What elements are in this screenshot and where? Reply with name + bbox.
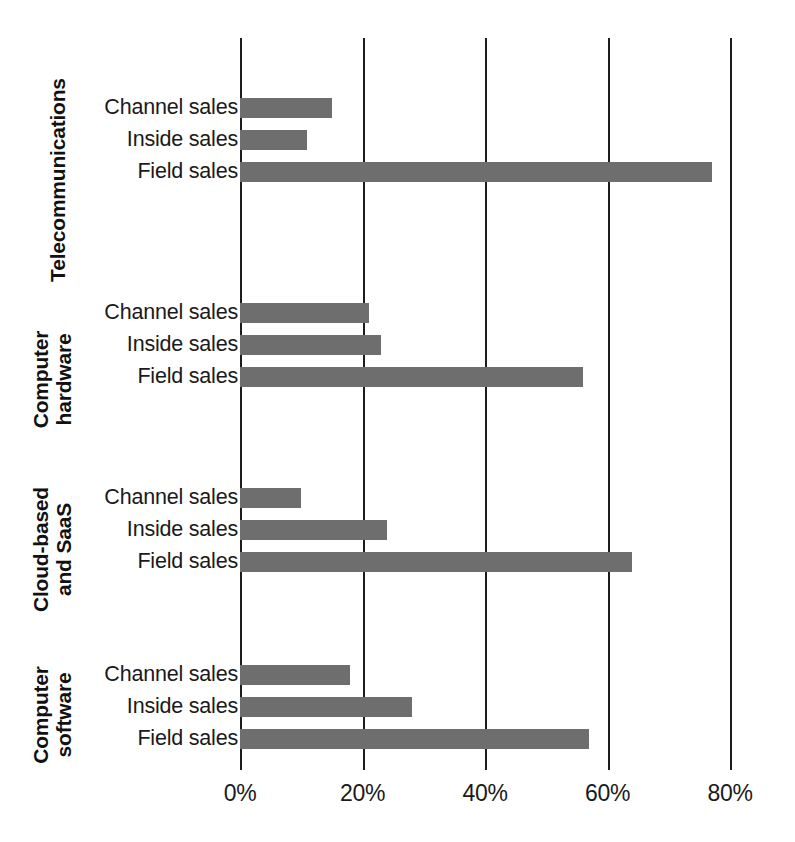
bar: [240, 552, 632, 572]
bar: [240, 665, 350, 685]
x-tick-label: 80%: [685, 780, 775, 807]
x-tick-label: 40%: [440, 780, 530, 807]
bar: [240, 303, 369, 323]
category-label: Computerhardware: [29, 292, 75, 467]
category-label: Telecommunications: [46, 60, 69, 300]
category-label-line: software: [52, 630, 75, 800]
bar-chart: Channel salesInside salesField salesChan…: [0, 0, 795, 842]
gridline-80: [730, 38, 732, 770]
x-tick-label: 60%: [563, 780, 653, 807]
gridline-20: [363, 38, 365, 770]
gridline-40: [485, 38, 487, 770]
bar: [240, 98, 332, 118]
series-label: Field sales: [0, 161, 238, 181]
bar: [240, 130, 307, 150]
category-label-line: Computer: [29, 630, 52, 800]
x-tick-label: 0%: [195, 780, 285, 807]
bar: [240, 520, 387, 540]
bar: [240, 697, 412, 717]
category-label: Cloud-basedand SaaS: [29, 462, 75, 637]
category-label: Computersoftware: [29, 630, 75, 800]
series-label: Inside sales: [0, 129, 238, 149]
category-label-line: Telecommunications: [46, 60, 69, 300]
category-label-line: hardware: [52, 292, 75, 467]
category-label-line: Cloud-based: [29, 462, 52, 637]
bar: [240, 488, 301, 508]
gridline-60: [608, 38, 610, 770]
bar: [240, 729, 589, 749]
plot-area: [240, 38, 730, 770]
category-label-line: and SaaS: [52, 462, 75, 637]
series-label: Channel sales: [0, 97, 238, 117]
bar: [240, 335, 381, 355]
bar: [240, 367, 583, 387]
bar: [240, 162, 712, 182]
x-tick-label: 20%: [318, 780, 408, 807]
category-label-line: Computer: [29, 292, 52, 467]
